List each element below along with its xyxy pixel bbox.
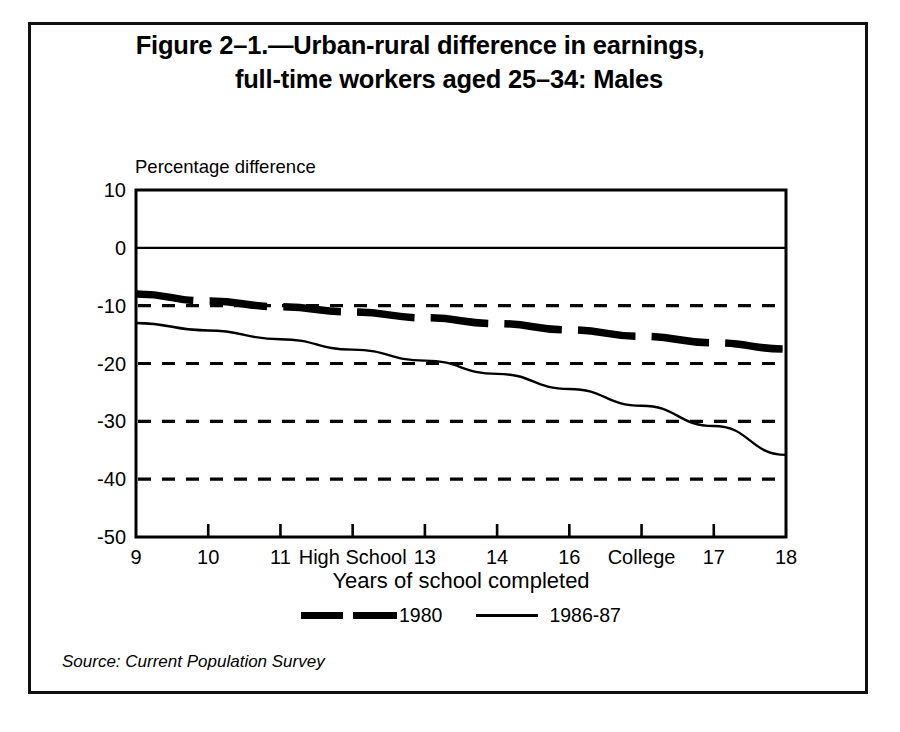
x-axis-label: Years of school completed	[136, 568, 786, 594]
y-tick-label--40: -40	[80, 469, 126, 489]
thick-dashed-line-swatch-icon	[301, 612, 397, 619]
x-tick-label-16: 16	[558, 547, 580, 567]
x-tick-label-18: 18	[775, 547, 797, 567]
x-tick-label-11: 11	[270, 547, 291, 567]
figure-root: Figure 2–1.—Urban-rural difference in ea…	[0, 0, 900, 732]
x-tick-label-13: 13	[414, 547, 436, 567]
legend-item-1986-87: 1986-87	[476, 604, 621, 627]
x-tick-label-14: 14	[486, 547, 508, 567]
x-tick-label-9: 9	[130, 547, 141, 567]
y-tick-label-10: 10	[80, 180, 126, 200]
x-tick-label-high-school: High School	[299, 547, 407, 567]
thin-solid-line-swatch-icon	[476, 614, 538, 617]
y-tick-label--30: -30	[80, 411, 126, 431]
x-tick-label-10: 10	[197, 547, 219, 567]
y-tick-label--50: -50	[80, 527, 126, 547]
x-tick-label-17: 17	[703, 547, 725, 567]
legend-label-1980: 1980	[399, 604, 442, 627]
y-tick-label--20: -20	[80, 354, 126, 374]
y-tick-label-0: 0	[80, 238, 126, 258]
legend-label-1986-87: 1986-87	[549, 604, 621, 627]
legend-item-1980: 1980	[301, 604, 442, 627]
x-tick-label-college: College	[608, 547, 676, 567]
source-note: Source: Current Population Survey	[62, 652, 325, 672]
y-tick-label--10: -10	[80, 296, 126, 316]
chart-legend: 1980 1986-87	[136, 604, 786, 627]
